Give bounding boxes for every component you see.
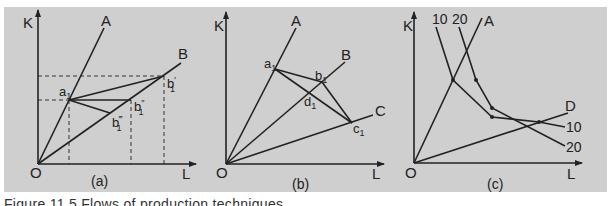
ray-label-D: D xyxy=(565,97,576,114)
isoquant-label-end-20: 20 xyxy=(566,139,582,155)
point-label-a1: a1 xyxy=(264,56,276,73)
x-axis-label: L xyxy=(182,165,190,182)
kink-dot xyxy=(537,120,541,124)
ray-label-B: B xyxy=(178,45,188,62)
point-label-b1: b1 xyxy=(315,68,327,85)
y-axis-label: K xyxy=(403,17,413,34)
isoquant-label-top-20: 20 xyxy=(452,11,468,27)
y-axis-label: K xyxy=(23,14,33,31)
ray-label-C: C xyxy=(375,102,386,119)
technique-segment xyxy=(322,82,352,123)
kink-dot xyxy=(490,115,494,119)
ray-A xyxy=(414,18,482,163)
technique-segment xyxy=(275,69,352,123)
technique-segment xyxy=(69,76,164,100)
isoquant-20 xyxy=(459,27,565,146)
ray-label-B: B xyxy=(341,46,351,63)
x-axis-label: L xyxy=(567,165,575,182)
kink-dot xyxy=(451,78,455,82)
panel-c: KLO(c)AD10102020 xyxy=(403,11,582,192)
kink-dot xyxy=(490,106,494,110)
origin-label: O xyxy=(216,164,228,181)
panel-label: (a) xyxy=(91,173,108,189)
kink-dot xyxy=(474,78,478,82)
point-label-b1-double-prime: b″1 xyxy=(134,98,145,117)
ray-D xyxy=(414,113,568,163)
point-label-b1-triple-prime: b‴1 xyxy=(112,114,123,133)
ray-label-A: A xyxy=(101,12,111,29)
diagram-canvas: KLO(a)ABa1b′1b″1b‴1 KLO(b)ABCa1b1d1c1 KL… xyxy=(0,0,614,206)
ray-label-A: A xyxy=(484,12,494,29)
point-label-b1-prime: b′1 xyxy=(167,75,176,94)
panel-a: KLO(a)ABa1b′1b″1b‴1 xyxy=(23,10,196,189)
isoquant-label-end-10: 10 xyxy=(566,119,582,135)
panel-label: (c) xyxy=(487,176,503,192)
x-axis-label: L xyxy=(372,165,380,182)
ray-label-A: A xyxy=(291,12,301,29)
panel-label: (b) xyxy=(292,176,309,192)
point-label-a1: a1 xyxy=(59,84,71,101)
point-label-c1: c1 xyxy=(353,121,365,138)
isoquant-label-top-10: 10 xyxy=(432,11,448,27)
y-axis-label: K xyxy=(214,17,224,34)
origin-label: O xyxy=(30,164,42,181)
panel-b: KLO(b)ABCa1b1d1c1 xyxy=(214,12,386,192)
origin-label: O xyxy=(405,164,417,181)
technique-segment xyxy=(69,100,110,113)
figure-caption: Figure 11.5 Flows of production techniqu… xyxy=(4,196,283,206)
